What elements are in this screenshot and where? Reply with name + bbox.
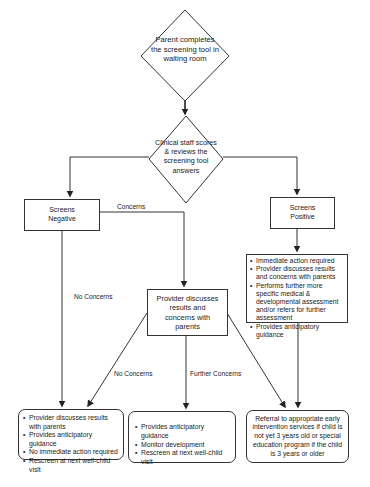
screens-positive-node: Screens Positive bbox=[270, 197, 335, 229]
start-node-text: Parent completes the screening tool in w… bbox=[151, 35, 219, 63]
outcome-referral-text: Referral to appropriate early interventi… bbox=[251, 415, 344, 459]
list-item: Provides anticipatory guidance bbox=[250, 323, 344, 339]
positive-actions-node: Immediate action required Provider discu… bbox=[246, 254, 348, 323]
positive-actions-list: Immediate action required Provider discu… bbox=[250, 257, 344, 339]
list-item: Monitor development bbox=[135, 441, 230, 450]
edge-label-concerns: Concerns bbox=[117, 203, 145, 210]
list-item: No immediate action required bbox=[23, 448, 119, 457]
edge-label-no-concerns-diagonal: No Concerns bbox=[114, 370, 152, 377]
list-item: Provides anticipatory guidance bbox=[23, 431, 119, 448]
list-item: Rescreen at next well-child visit bbox=[135, 449, 230, 467]
edge-label-further-concerns: Further Concerns bbox=[190, 370, 241, 377]
edge-label-no-concerns-left: No Concerns bbox=[74, 293, 112, 300]
decision-node: Clinical staff scores & reviews the scre… bbox=[154, 138, 218, 175]
provider-discusses-node: Provider discusses results and concerns … bbox=[147, 289, 228, 336]
decision-node-text: Clinical staff scores & reviews the scre… bbox=[155, 138, 217, 175]
outcome-referral-node: Referral to appropriate early interventi… bbox=[246, 410, 349, 463]
screens-negative-node: Screens Negative bbox=[24, 199, 100, 231]
list-item: Immediate action required bbox=[250, 257, 344, 265]
screens-positive-text: Screens Positive bbox=[283, 204, 323, 221]
outcome-no-concerns-node: Provider discusses results with parents … bbox=[18, 409, 124, 460]
list-item: Provides anticipatory guidance bbox=[135, 423, 230, 441]
screens-negative-text: Screens Negative bbox=[40, 206, 84, 223]
list-item: Provider discusses results and concerns … bbox=[250, 265, 344, 281]
list-item: Rescreen at next well-child visit bbox=[23, 457, 119, 474]
outcome-no-concerns-list: Provider discusses results with parents … bbox=[23, 414, 119, 474]
outcome-further-concerns-node: Provides anticipatory guidance Monitor d… bbox=[128, 411, 236, 463]
list-item: Provider discusses results with parents bbox=[23, 414, 119, 431]
provider-discusses-text: Provider discusses results and concerns … bbox=[156, 294, 220, 331]
list-item: Performs further more specific medical &… bbox=[250, 282, 344, 323]
start-node: Parent completes the screening tool in w… bbox=[151, 35, 219, 64]
outcome-further-concerns-list: Provides anticipatory guidance Monitor d… bbox=[135, 423, 230, 467]
